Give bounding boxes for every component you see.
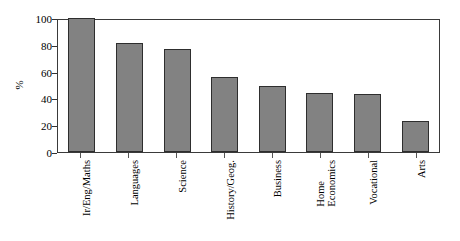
x-tick-label-history-geog: History/Geog. (225, 160, 236, 220)
x-tick-slot (344, 153, 392, 158)
x-tick-mark (80, 153, 81, 158)
x-label-slot: Ir/Eng/Maths (57, 160, 105, 238)
x-tick-slot (296, 153, 344, 158)
bar-slot (391, 20, 439, 152)
x-axis-tick-marks (57, 153, 440, 158)
y-tick-label-20: 20 (26, 121, 52, 132)
bar-science (164, 49, 191, 152)
x-tick-label-line1: Languages (129, 160, 140, 205)
plot-area (58, 20, 439, 152)
y-tick-label-40: 40 (26, 94, 52, 105)
x-tick-label-science: Science (177, 160, 188, 193)
x-tick-mark (128, 153, 129, 158)
x-tick-slot (201, 153, 249, 158)
x-tick-label-ir-eng-maths: Ir/Eng/Maths (81, 160, 92, 216)
x-label-slot: History/Geog. (201, 160, 249, 238)
x-tick-mark (224, 153, 225, 158)
y-tick-label-0: 0 (26, 148, 52, 159)
x-tick-label-business: Business (272, 160, 283, 197)
x-tick-label-line1: Science (177, 160, 188, 193)
bar-slot (106, 20, 154, 152)
x-tick-label-line1: History/Geog. (225, 160, 236, 220)
y-tick-label-80: 80 (26, 40, 52, 51)
x-tick-mark (320, 153, 321, 158)
x-tick-label-line1: Home (315, 181, 326, 207)
x-tick-label-line2: Economics (326, 160, 337, 207)
bar-vocational (354, 94, 381, 152)
y-tick-label-100: 100 (26, 14, 52, 25)
bar-slot (249, 20, 297, 152)
x-tick-slot (105, 153, 153, 158)
x-label-slot: Science (153, 160, 201, 238)
bar-business (259, 86, 286, 152)
x-tick-mark (368, 153, 369, 158)
bar-history-geog (211, 77, 238, 152)
x-tick-slot (249, 153, 297, 158)
bar-slot (344, 20, 392, 152)
bar-slot (58, 20, 106, 152)
x-tick-slot (57, 153, 105, 158)
x-axis-tick-labels: Ir/Eng/Maths Languages Science History/G… (57, 160, 440, 238)
x-tick-label-arts: Arts (416, 160, 427, 178)
x-tick-mark (416, 153, 417, 158)
x-label-slot: Business (249, 160, 297, 238)
bar-slot (296, 20, 344, 152)
bar-slot (201, 20, 249, 152)
y-axis-tick-labels: 0 20 40 60 80 100 (26, 19, 52, 153)
bar-ir-eng-maths (68, 18, 95, 152)
bar-arts (402, 121, 429, 152)
x-tick-slot (153, 153, 201, 158)
x-tick-mark (272, 153, 273, 158)
x-tick-label-line1: Business (272, 160, 283, 197)
x-tick-label-line1: Arts (416, 160, 427, 178)
x-label-slot: Languages (105, 160, 153, 238)
x-label-slot: Arts (392, 160, 440, 238)
x-tick-label-vocational: Vocational (368, 160, 379, 205)
bar-slot (153, 20, 201, 152)
y-tick-label-60: 60 (26, 67, 52, 78)
plot-frame (57, 19, 440, 153)
x-tick-label-languages: Languages (129, 160, 140, 205)
bar-chart: % 0 20 40 60 80 100 (0, 0, 460, 241)
x-label-slot: Home Economics (296, 160, 344, 238)
bar-home-economics (306, 93, 333, 152)
x-tick-label-line1: Vocational (368, 160, 379, 205)
x-tick-label-home-economics: Home Economics (315, 160, 337, 207)
x-label-slot: Vocational (344, 160, 392, 238)
x-tick-label-line1: Ir/Eng/Maths (81, 160, 92, 216)
x-tick-slot (392, 153, 440, 158)
x-tick-mark (176, 153, 177, 158)
bar-languages (116, 43, 143, 152)
